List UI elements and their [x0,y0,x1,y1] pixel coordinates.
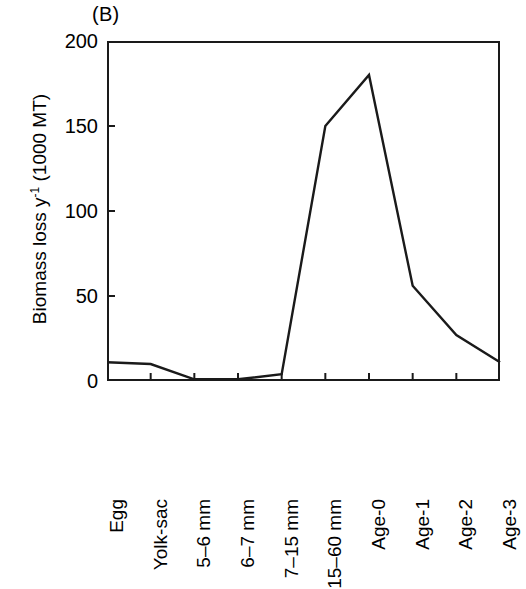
x-tick-label: Yolk-sac [151,499,170,570]
panel-label: (B) [92,4,120,24]
axis-tick-marks [107,126,456,381]
data-series-line [107,41,500,381]
x-tick-label: 15–60 mm [325,499,344,589]
plot-area [107,41,500,381]
y-tick-label: 100 [42,201,98,221]
x-tick-label: 7–15 mm [282,499,301,578]
y-axis-tick-labels: 050100150200 [32,41,98,381]
x-tick-label: 5–6 mm [194,499,213,568]
y-tick-label: 150 [42,116,98,136]
x-tick-label: Age-0 [369,499,388,550]
y-tick-label: 200 [42,31,98,51]
y-tick-label: 0 [42,371,98,391]
y-tick-label: 50 [42,286,98,306]
x-tick-label: Egg [107,499,126,533]
x-axis-tick-labels: EggYolk-sac5–6 mm6–7 mm7–15 mm15–60 mmAg… [107,381,500,506]
x-tick-label: Age-2 [456,499,475,550]
x-tick-label: Age-3 [500,499,519,550]
biomass-loss-line [107,75,500,379]
x-tick-label: 6–7 mm [238,499,257,568]
x-tick-label: Age-1 [413,499,432,550]
